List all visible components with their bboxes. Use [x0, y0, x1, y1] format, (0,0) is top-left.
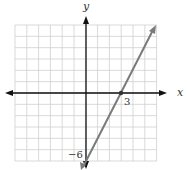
- x-intercept-label: 3: [124, 96, 130, 107]
- x-intercept-point: [119, 91, 123, 95]
- x-axis-right-arrow-icon: [159, 90, 167, 96]
- y-intercept-label: −6: [68, 149, 83, 160]
- x-axis: x: [5, 86, 184, 99]
- x-axis-label: x: [177, 86, 184, 99]
- y-axis-label: y: [82, 0, 90, 13]
- x-axis-left-arrow-icon: [5, 90, 13, 96]
- line-upper-arrow-icon: [149, 25, 156, 34]
- y-axis-up-arrow-icon: [83, 16, 89, 24]
- coordinate-plane: x y 3 −6: [0, 0, 187, 170]
